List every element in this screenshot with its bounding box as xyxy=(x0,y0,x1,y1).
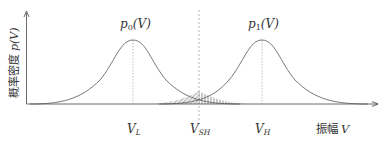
vh-label: VH xyxy=(255,122,271,137)
x-axis-title: 振幅V xyxy=(316,122,351,136)
curve-p0-label: p0(V) xyxy=(120,17,151,32)
vsh-label: VSH xyxy=(190,122,211,137)
overlap-region xyxy=(150,91,250,104)
y-axis xyxy=(24,11,29,104)
y-axis-title: 概率密度p(V) xyxy=(7,27,21,98)
diagram-canvas: p0(V) p1(V) VL VSH VH 振幅V 概率密度p(V) xyxy=(0,0,387,143)
curve-p1 xyxy=(159,40,368,104)
curve-p1-label: p1(V) xyxy=(248,17,279,32)
vl-label: VL xyxy=(127,122,141,137)
curve-p0 xyxy=(30,40,240,104)
